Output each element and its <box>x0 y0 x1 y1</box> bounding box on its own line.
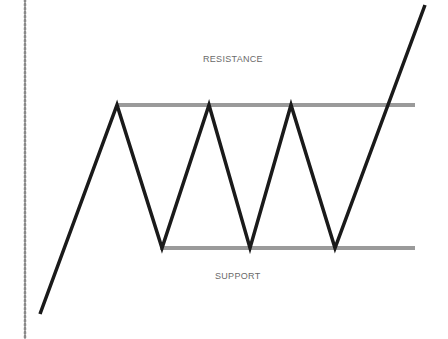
chart-pattern-diagram <box>0 0 448 339</box>
support-label: SUPPORT <box>215 271 260 281</box>
resistance-label: RESISTANCE <box>203 54 263 64</box>
price-line <box>40 5 425 314</box>
